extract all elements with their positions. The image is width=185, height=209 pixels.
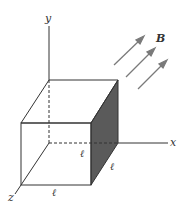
x-axis-label: x bbox=[170, 136, 177, 149]
z-axis bbox=[15, 185, 21, 194]
y-axis-label: y bbox=[44, 12, 52, 25]
edge-label-height: ℓ bbox=[80, 148, 84, 159]
diagram-canvas: y x z B ℓ ℓ ℓ bbox=[0, 0, 185, 209]
z-axis-label: z bbox=[7, 191, 14, 204]
cube-diagram: y x z B ℓ ℓ ℓ bbox=[0, 0, 185, 209]
hidden-edge-z bbox=[21, 143, 49, 185]
edge-label-width: ℓ bbox=[52, 187, 56, 198]
edge-label-depth: ℓ bbox=[110, 161, 114, 172]
field-label-b: B bbox=[155, 32, 165, 45]
